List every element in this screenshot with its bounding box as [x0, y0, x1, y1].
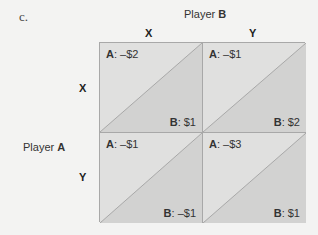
payoff-b: B: –$1	[164, 207, 196, 219]
cell-x-y: A: –$1 B: $2	[203, 43, 306, 133]
column-header-x: X	[145, 27, 152, 39]
cell-x-x: A: –$2 B: $1	[100, 43, 203, 133]
row-header-x: X	[79, 82, 86, 94]
payoff-b: B: $2	[274, 116, 300, 128]
cell-y-x: A: –$1 B: –$1	[100, 133, 203, 223]
player-b-label: Player B	[184, 8, 226, 20]
player-a-label: Player A	[23, 141, 65, 153]
cell-y-y: A: –$3 B: $1	[203, 133, 306, 223]
payoff-a: A: –$3	[209, 138, 241, 150]
player-b-name: B	[218, 8, 226, 20]
player-b-prefix: Player	[184, 8, 218, 20]
payoff-a: A: –$1	[209, 48, 241, 60]
payoff-b: B: $1	[274, 207, 300, 219]
payoff-a: A: –$1	[106, 138, 138, 150]
column-header-y: Y	[249, 27, 256, 39]
player-a-name: A	[57, 141, 65, 153]
row-header-y: Y	[79, 171, 86, 183]
payoff-matrix: A: –$2 B: $1 A: –$1 B: $2 A: –$1 B: –$1 …	[99, 42, 305, 222]
payoff-b: B: $1	[170, 116, 196, 128]
player-a-prefix: Player	[23, 141, 57, 153]
payoff-a: A: –$2	[106, 48, 138, 60]
part-label: c.	[19, 9, 28, 25]
